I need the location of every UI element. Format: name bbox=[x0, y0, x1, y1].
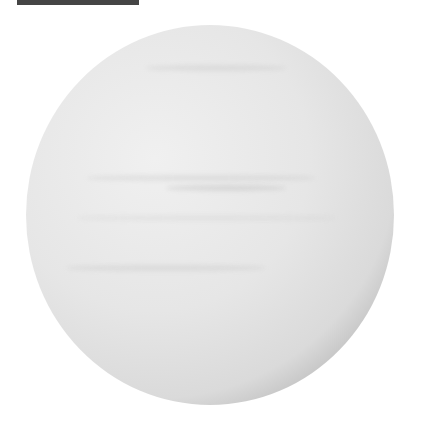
cloud-band bbox=[166, 185, 286, 191]
cloud-band bbox=[76, 215, 336, 221]
cloud-band bbox=[86, 175, 316, 181]
cloud-band bbox=[146, 65, 286, 71]
top-bar bbox=[17, 0, 139, 5]
planet-sphere bbox=[26, 25, 394, 405]
cloud-band bbox=[66, 265, 266, 271]
